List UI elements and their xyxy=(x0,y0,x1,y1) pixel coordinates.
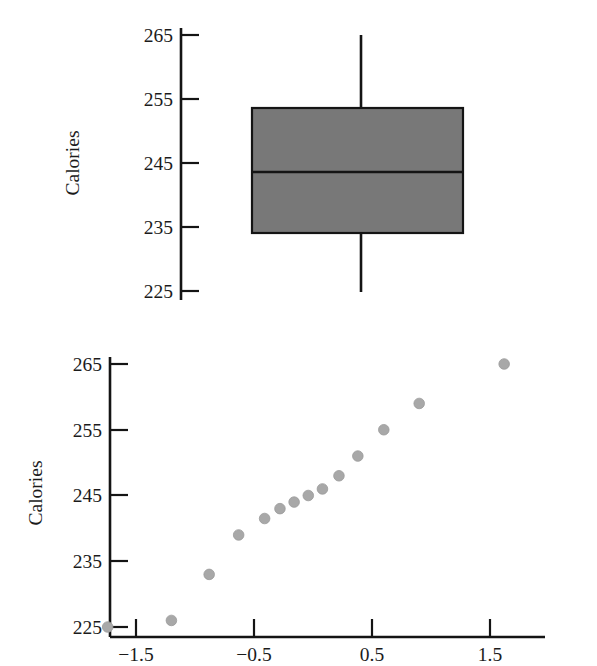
boxplot-ytick-label-225: 225 xyxy=(144,281,173,302)
scatter-point xyxy=(353,451,364,462)
scatter-point xyxy=(303,490,314,501)
scatter-ytick-label-265: 265 xyxy=(73,354,102,375)
statistics-figure: 265 255 245 235 225 Calories xyxy=(0,0,597,666)
scatter-x-tick-labels: −1.5 −0.5 0.5 1.5 xyxy=(118,644,502,665)
boxplot-y-axis-title: Calories xyxy=(62,131,83,196)
scatter-ytick-label-235: 235 xyxy=(73,551,102,572)
scatter-y-tick-labels: 265 255 245 235 225 xyxy=(73,354,102,638)
scatter-point xyxy=(317,484,328,495)
scatter-point xyxy=(259,513,270,524)
scatter-x-ticks xyxy=(136,619,490,637)
scatter-xtick-label-neg1-5: −1.5 xyxy=(118,644,153,665)
scatter-ytick-label-245: 245 xyxy=(73,485,102,506)
scatter-point xyxy=(275,503,286,514)
boxplot-ytick-label-255: 255 xyxy=(144,89,173,110)
scatter-xtick-label-1-5: 1.5 xyxy=(478,644,502,665)
scatter-point xyxy=(334,470,345,481)
scatter-point xyxy=(414,398,425,409)
scatter-xtick-label-neg0-5: −0.5 xyxy=(236,644,271,665)
scatter-point xyxy=(233,530,244,541)
scatter-y-ticks xyxy=(110,364,128,627)
scatter-xtick-label-0-5: 0.5 xyxy=(360,644,384,665)
boxplot-ytick-label-235: 235 xyxy=(144,217,173,238)
scatter-data-points xyxy=(102,359,509,633)
boxplot-y-ticks xyxy=(181,35,199,291)
boxplot-y-tick-labels: 265 255 245 235 225 xyxy=(144,25,173,302)
scatter-point xyxy=(166,615,177,626)
boxplot-ytick-label-265: 265 xyxy=(144,25,173,46)
scatter-ytick-label-225: 225 xyxy=(73,617,102,638)
boxplot-panel: 265 255 245 235 225 Calories xyxy=(0,0,597,333)
scatter-point xyxy=(204,569,215,580)
scatter-point xyxy=(499,359,510,370)
boxplot-ytick-label-245: 245 xyxy=(144,153,173,174)
scatter-panel: 265 255 245 235 225 Calories −1.5 −0.5 0… xyxy=(0,333,597,666)
scatter-point xyxy=(379,424,390,435)
scatter-ytick-label-255: 255 xyxy=(73,420,102,441)
boxplot-box xyxy=(252,108,463,233)
scatter-point xyxy=(289,497,300,508)
scatter-point xyxy=(102,622,113,633)
scatter-y-axis-title: Calories xyxy=(25,461,46,526)
